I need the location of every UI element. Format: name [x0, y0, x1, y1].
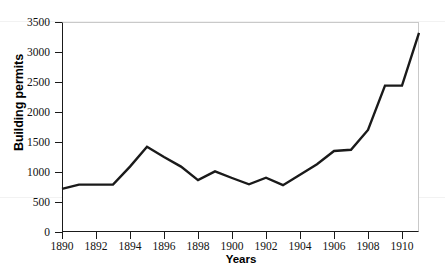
x-axis-title: Years: [62, 253, 420, 265]
y-tick: [55, 142, 62, 143]
y-tick: [55, 52, 62, 53]
x-tick: [266, 232, 267, 239]
series-line-building-permits: [62, 33, 419, 189]
x-tick: [198, 232, 199, 239]
y-tick: [55, 232, 62, 233]
x-tick: [130, 232, 131, 239]
y-tick-label: 2500: [0, 76, 50, 88]
y-tick-label: 2000: [0, 106, 50, 118]
y-tick-label: 3500: [0, 16, 50, 28]
y-tick: [55, 22, 62, 23]
y-tick-label: 1500: [0, 136, 50, 148]
x-tick: [368, 232, 369, 239]
x-tick: [62, 232, 63, 239]
y-tick: [55, 202, 62, 203]
y-tick-label: 500: [0, 196, 50, 208]
x-tick: [232, 232, 233, 239]
y-tick-label: 3000: [0, 46, 50, 58]
x-tick-label: 1910: [380, 240, 424, 252]
y-tick: [55, 112, 62, 113]
x-tick: [402, 232, 403, 239]
y-tick-label: 1000: [0, 166, 50, 178]
x-tick: [96, 232, 97, 239]
y-tick: [55, 82, 62, 83]
x-tick: [334, 232, 335, 239]
chart-figure: Building permits 05001000150020002500300…: [0, 0, 445, 279]
y-tick-label: 0: [0, 226, 50, 238]
x-tick: [300, 232, 301, 239]
data-line-layer: [62, 22, 419, 232]
x-tick: [164, 232, 165, 239]
y-tick: [55, 172, 62, 173]
